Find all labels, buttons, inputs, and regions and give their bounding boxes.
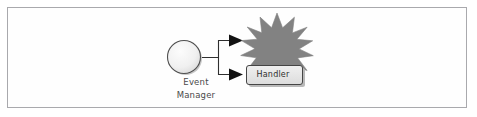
event-manager-label-line-2: Manager <box>160 89 232 102</box>
event-manager-circle[interactable] <box>168 41 201 74</box>
event-manager-label: Event Manager <box>160 76 232 102</box>
event-manager-label-line-1: Event <box>160 76 232 89</box>
diagram-shapes-layer <box>0 0 477 117</box>
diagram-canvas: Event Manager Handler <box>0 0 477 117</box>
connector-to-burst <box>202 35 244 58</box>
handler-label: Handler <box>248 70 298 79</box>
